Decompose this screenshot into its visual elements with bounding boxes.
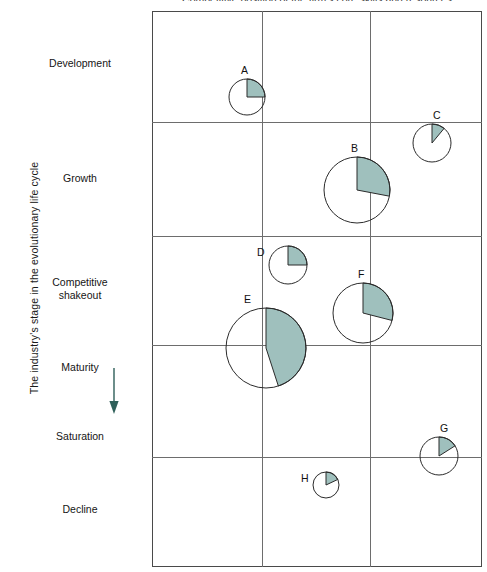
- bubble-b: [324, 157, 390, 223]
- bubble-b-wedge: [357, 157, 390, 196]
- chart-canvas: Competitive position of the firm's core …: [0, 0, 487, 572]
- bubble-g: [420, 437, 458, 475]
- bubble-h: [313, 472, 339, 498]
- bubble-a: [229, 79, 265, 115]
- bubble-g-wedge: [439, 437, 455, 456]
- bubble-label-d: D: [257, 247, 265, 258]
- bubble-d: [269, 246, 307, 284]
- bubble-layer: [0, 0, 487, 572]
- bubble-e-wedge: [266, 308, 306, 386]
- bubble-f-wedge: [363, 283, 393, 320]
- bubble-label-e: E: [244, 294, 251, 305]
- bubble-label-c: C: [433, 110, 441, 121]
- bubble-e: [226, 308, 306, 388]
- bubble-f: [333, 283, 393, 343]
- bubble-label-a: A: [241, 65, 248, 76]
- bubble-label-g: G: [440, 423, 448, 434]
- bubble-label-h: H: [301, 473, 309, 484]
- bubble-label-b: B: [351, 143, 358, 154]
- bubble-c: [413, 124, 451, 162]
- bubble-label-f: F: [358, 269, 364, 280]
